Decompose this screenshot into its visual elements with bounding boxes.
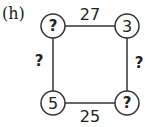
figure-label: (h) [2,4,25,23]
node-bottom-left-value: 5 [48,94,58,113]
edge-bottom-value: 25 [80,107,100,126]
edge-left-value: ? [35,52,44,70]
node-top-left-value: ? [49,17,58,35]
edge-right-value: ? [135,54,144,72]
edge-top-value: 27 [80,5,100,24]
node-bottom-right-value: ? [123,94,132,112]
node-top-right-value: 3 [122,17,132,36]
square-diagram: (h) ? 3 5 ? 27 ? 25 ? [0,0,145,127]
